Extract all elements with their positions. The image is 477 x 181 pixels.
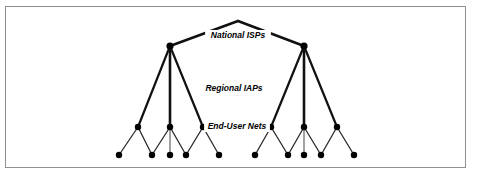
nodes-end-user-nets [116,152,357,158]
node-iap-l1 [135,124,141,130]
edge-isp-right-to-iap-r3 [304,46,337,127]
node-eu-6 [252,152,258,158]
node-iap-r2 [301,124,307,130]
edge-iap-r2-to-eu-7 [288,127,304,155]
node-eu-8 [301,152,307,158]
node-eu-9 [318,152,324,158]
edge-iap-r3-to-eu-9 [321,127,337,155]
edge-iap-l3-to-eu-4 [186,127,203,155]
node-eu-7 [285,152,291,158]
node-eu-1 [116,152,122,158]
edge-iap-l1-to-eu-1 [119,127,138,155]
edge-iap-r2-to-eu-9 [304,127,321,155]
tier-labels-group: National ISPsRegional IAPsEnd-User Nets [201,30,271,132]
edge-isp-right-to-iap-r1 [271,46,304,127]
edge-isp-left-to-iap-l1 [138,46,170,127]
node-iap-l2 [167,124,173,130]
figure-screenshot: National ISPsRegional IAPsEnd-User Nets [0,0,477,181]
edge-iap-l2-to-eu-4 [170,127,186,155]
edge-iap-l2-to-eu-2 [152,127,170,155]
node-eu-4 [183,152,189,158]
tier-label-end-user-nets: End-User Nets [208,121,267,131]
edge-isp-left-to-iap-l3 [170,46,203,127]
node-eu-3 [167,152,173,158]
node-isp-right [300,42,307,49]
edge-iap-r3-to-eu-10 [337,127,354,155]
node-iap-r3 [334,124,340,130]
nodes-national-isps [166,42,307,49]
node-eu-2 [149,152,155,158]
node-isp-left [166,42,173,49]
node-eu-10 [351,152,357,158]
network-hierarchy-diagram: National ISPsRegional IAPsEnd-User Nets [0,0,477,181]
edge-iap-r1-to-eu-7 [271,127,288,155]
node-eu-5 [216,152,222,158]
edge-iap-l1-to-eu-2 [138,127,152,155]
tier-label-regional-iaps: Regional IAPs [205,83,262,93]
tier-label-national-isps: National ISPs [211,30,266,40]
